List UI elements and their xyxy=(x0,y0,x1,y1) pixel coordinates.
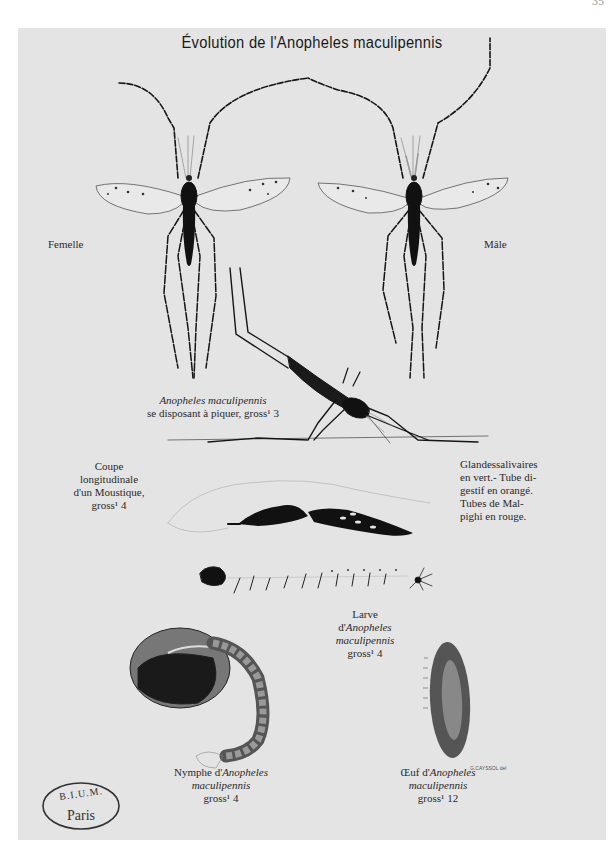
larva-caption-title: Larve xyxy=(352,608,378,620)
nymph-caption-genus: Anopheles xyxy=(222,766,268,778)
larva-caption-genus: Anopheles xyxy=(346,621,392,633)
egg-caption-magnification: gross¹ 12 xyxy=(418,792,458,804)
larva-caption-species: maculipennis xyxy=(336,634,395,646)
male-label: Mâle xyxy=(484,238,507,251)
legend-line: en vert.- Tube di- xyxy=(460,471,536,483)
larva-caption: Larve d'Anopheles maculipennis gross¹ 4 xyxy=(322,608,408,660)
nymph-caption-prefix: Nymphe d' xyxy=(174,766,222,778)
egg-illustration: G.CAYSSOL del xyxy=(423,641,506,771)
egg-caption-prefix: Œuf d' xyxy=(400,766,429,778)
stamp-bottom-text: Paris xyxy=(40,808,122,824)
nymph-caption: Nymphe d'Anopheles maculipennis gross¹ 4 xyxy=(146,766,296,805)
page-number: 35 xyxy=(592,0,604,9)
egg-caption-species: maculipennis xyxy=(409,779,468,791)
legend-line: gestif en orangé. xyxy=(460,484,533,496)
illustration-plate: Évolution de l'Anopheles maculipennis xyxy=(18,28,606,840)
section-color-legend: Glandessalivaires en vert.- Tube di- ges… xyxy=(460,458,560,523)
biting-caption-species: Anopheles maculipennis xyxy=(159,394,266,406)
female-label: Femelle xyxy=(48,238,83,251)
egg-caption-genus: Anopheles xyxy=(430,766,476,778)
biting-mosquito-caption: Anopheles maculipennis se disposant à pi… xyxy=(108,394,318,420)
egg-caption: Œuf d'Anopheles maculipennis gross¹ 12 xyxy=(378,766,498,805)
male-mosquito-illustration xyxy=(308,38,508,378)
section-caption-line: longitudinale xyxy=(80,473,138,485)
larva-illustration xyxy=(200,567,432,593)
larva-caption-prefix: d' xyxy=(338,621,345,633)
section-caption-line: gross¹ 4 xyxy=(92,499,127,511)
nymph-caption-species: maculipennis xyxy=(192,779,251,791)
plate-illustrations: G.CAYSSOL del xyxy=(18,28,606,840)
legend-line: pighi en rouge. xyxy=(460,510,526,522)
library-stamp: B.I.U.M. Paris xyxy=(40,780,122,832)
nymph-caption-magnification: gross¹ 4 xyxy=(204,792,239,804)
section-caption-line: Coupe xyxy=(95,460,124,472)
larva-caption-magnification: gross¹ 4 xyxy=(348,647,383,659)
longitudinal-section-illustration xyxy=(168,481,430,536)
biting-caption-description: se disposant à piquer, gross¹ 3 xyxy=(147,407,279,419)
section-caption: Coupe longitudinale d'un Moustique, gros… xyxy=(54,460,164,512)
female-mosquito-illustration xyxy=(96,78,308,378)
legend-line: Glandessalivaires xyxy=(460,458,538,470)
nymph-illustration xyxy=(130,628,263,768)
section-caption-line: d'un Moustique, xyxy=(73,486,144,498)
legend-line: Tubes de Mal- xyxy=(460,497,524,509)
